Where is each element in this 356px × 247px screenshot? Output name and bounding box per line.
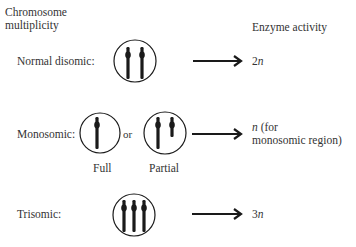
cell-monosomic-full-icon <box>80 113 120 153</box>
cell-monosomic-partial-icon <box>144 112 186 154</box>
cell-disomic-icon <box>114 40 156 82</box>
diagram-graphics <box>0 0 356 247</box>
cell-trisomic-icon <box>113 194 155 236</box>
